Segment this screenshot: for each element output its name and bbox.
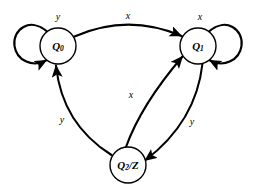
transition-q0-to-q1-path [75, 25, 182, 37]
state-node-q2-suffix: /Z [128, 159, 139, 171]
transition-q1-to-q2: y [145, 64, 203, 161]
state-node-q1-base: Q [192, 40, 200, 52]
state-node-q1[interactable]: Q1 [180, 28, 216, 64]
self-loop-q0-label: y [55, 11, 61, 22]
state-node-q2[interactable]: Q2/Z [110, 147, 146, 183]
transition-q1-to-q2-path [145, 64, 203, 161]
transition-q2-to-q0-label: y [59, 114, 65, 125]
state-node-q1-subscript: 1 [200, 44, 204, 53]
transition-q0-to-q1: x [75, 10, 182, 37]
transition-q0-to-q1-label: x [125, 10, 131, 21]
state-diagram-canvas: x y x y y x Q0 [0, 0, 256, 189]
transition-q2-to-q1-label: x [128, 89, 134, 100]
state-node-q0-subscript: 0 [60, 44, 64, 53]
transition-q1-to-q2-label: y [189, 116, 195, 127]
state-node-q0[interactable]: Q0 [40, 28, 76, 64]
transition-q2-to-q0-path [56, 66, 112, 156]
state-node-q2-label: Q2/Z [117, 159, 139, 172]
state-diagram: x y x y y x Q0 [0, 0, 256, 189]
state-node-q2-base: Q [117, 159, 125, 171]
state-node-q0-base: Q [52, 40, 60, 52]
transition-q2-to-q0: y [56, 66, 112, 156]
self-loop-q1-label: x [197, 11, 203, 22]
